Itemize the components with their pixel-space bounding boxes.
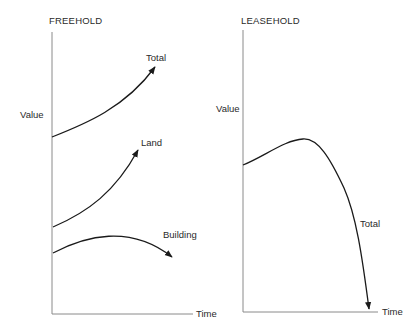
freehold-y-label: Value xyxy=(20,109,44,120)
freehold-building-label: Building xyxy=(163,229,197,240)
leasehold-total-label: Total xyxy=(360,218,380,229)
leasehold-x-label: Time xyxy=(382,306,403,317)
valuation-diagram: FREEHOLD Value Time Total Land Building … xyxy=(0,0,417,330)
leasehold-panel: LEASEHOLD Value Time Total xyxy=(216,15,403,317)
leasehold-y-label: Value xyxy=(216,103,240,114)
freehold-land-label: Land xyxy=(141,137,162,148)
freehold-panel: FREEHOLD Value Time Total Land Building xyxy=(20,15,217,319)
freehold-x-label: Time xyxy=(196,308,217,319)
freehold-total-curve xyxy=(52,67,155,137)
leasehold-total-curve xyxy=(243,139,369,309)
freehold-land-curve xyxy=(53,150,138,227)
freehold-total-label: Total xyxy=(146,52,166,63)
freehold-building-curve xyxy=(53,236,172,257)
freehold-title: FREEHOLD xyxy=(49,15,102,26)
leasehold-title: LEASEHOLD xyxy=(241,15,300,26)
